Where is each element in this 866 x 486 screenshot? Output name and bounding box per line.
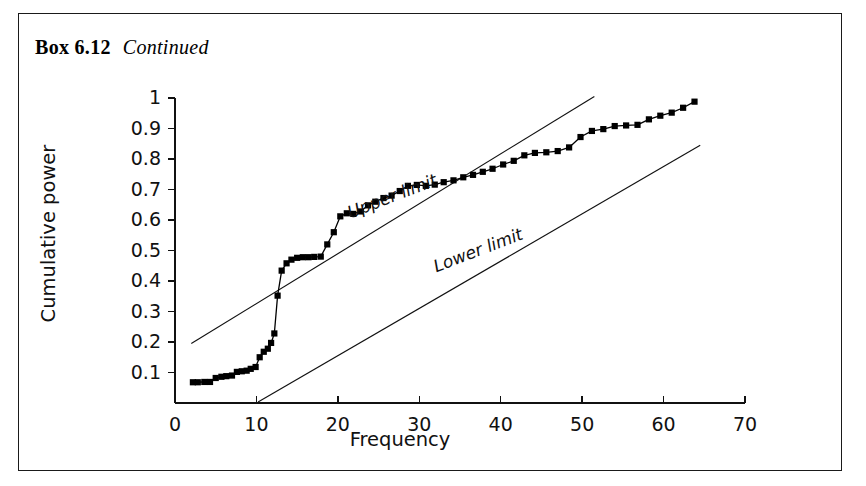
box-title: Box 6.12Continued <box>35 36 209 59</box>
box-continued-label: Continued <box>123 36 209 58</box>
box-number: Box 6.12 <box>35 36 111 58</box>
figure-border <box>18 13 842 471</box>
figure-page: Box 6.12Continued Cumulative power Frequ… <box>0 0 866 486</box>
